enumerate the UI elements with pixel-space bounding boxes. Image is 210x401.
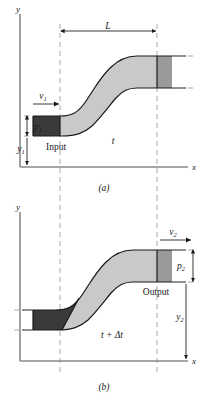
height-label-a: y1 xyxy=(16,144,24,155)
caption-a: (a) xyxy=(98,183,109,194)
time-label-b: t + Δt xyxy=(101,330,123,340)
input-label: Input xyxy=(46,142,66,152)
velocity-label-b: v2 xyxy=(169,227,177,238)
panel-a: y x L v1 p1 y1 I xyxy=(15,4,196,196)
pressure-label-b: p2 xyxy=(176,261,186,272)
length-label-L: L xyxy=(104,21,110,31)
time-label-a: t xyxy=(112,136,115,146)
diagram-svg: y x L v1 p1 y1 I xyxy=(0,0,210,401)
y-axis-label-b: y xyxy=(15,202,20,212)
y-axis-label-a: y xyxy=(15,4,20,14)
x-axis-label-b: x xyxy=(191,356,196,366)
panel-b: y x v2 p2 y2 Output xyxy=(14,196,196,393)
x-axis-label-a: x xyxy=(191,162,196,172)
height-label-b: y2 xyxy=(175,312,184,323)
outlet-band-a xyxy=(157,56,172,88)
output-label: Output xyxy=(143,287,170,297)
physics-figure: y x L v1 p1 y1 I xyxy=(0,0,210,401)
velocity-label-a: v1 xyxy=(39,91,46,102)
caption-b: (b) xyxy=(98,382,109,393)
outlet-band-b xyxy=(157,250,172,282)
